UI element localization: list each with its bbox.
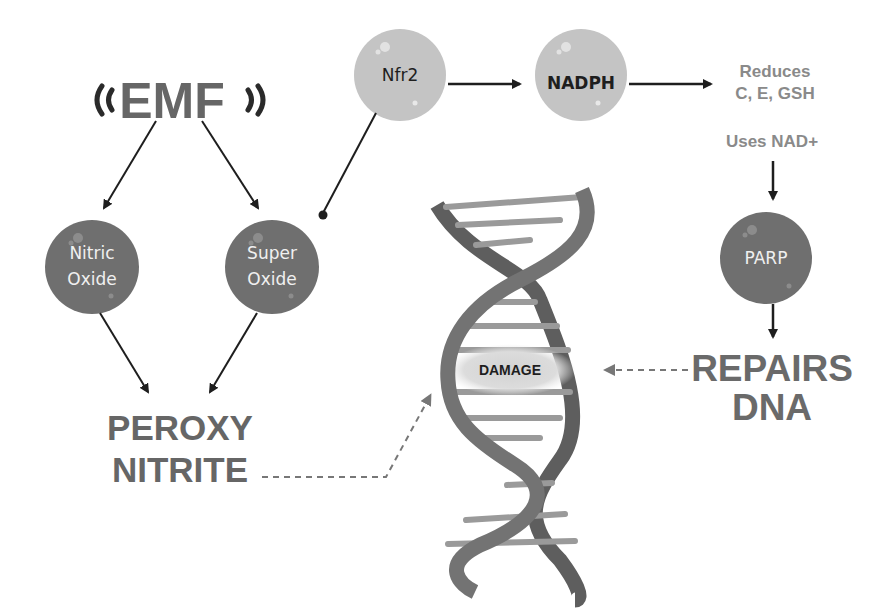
damage-label: DAMAGE — [479, 362, 541, 378]
emf-label: EMF — [119, 73, 225, 129]
emf-group: EMF — [97, 73, 263, 129]
arrow-super-oxide-to-peroxy — [210, 313, 257, 392]
node-parp: PARP — [720, 212, 812, 304]
nitric-oxide-line1: Nitric — [69, 243, 114, 263]
node-super-oxide: Super Oxide — [225, 220, 319, 314]
peroxy-line2: NITRITE — [112, 450, 248, 489]
signal-waves-left-icon — [97, 86, 112, 114]
node-nitric-oxide: Nitric Oxide — [45, 220, 139, 314]
nfr2-label: Nfr2 — [382, 65, 419, 85]
signal-waves-right-icon — [248, 86, 263, 114]
inhibit-dot — [319, 211, 328, 220]
nitric-oxide-line2: Oxide — [67, 269, 116, 289]
peroxy-line1: PEROXY — [107, 408, 253, 447]
parp-label: PARP — [745, 248, 788, 268]
dashed-arrow-peroxy-to-dna — [262, 396, 430, 477]
inhibit-nfr2-to-super-oxide — [323, 113, 376, 213]
pathway-diagram: EMF Nitric Oxide Super Oxide Nfr2 — [0, 0, 886, 614]
arrow-nitric-oxide-to-peroxy — [100, 313, 148, 392]
repairs-line2: DNA — [732, 387, 812, 428]
reduces-line2: C, E, GSH — [735, 84, 814, 103]
repairs-line1: REPAIRS — [691, 348, 853, 389]
nadph-label: NADPH — [547, 73, 615, 93]
node-nfr2: Nfr2 — [354, 29, 446, 121]
super-oxide-line2: Oxide — [247, 269, 296, 289]
arrow-emf-to-super-oxide — [202, 121, 258, 208]
arrow-emf-to-nitric-oxide — [104, 121, 156, 208]
node-nadph: NADPH — [535, 29, 627, 121]
super-oxide-line1: Super — [247, 243, 297, 263]
reduces-line1: Reduces — [740, 62, 811, 81]
uses-nad-label: Uses NAD+ — [726, 132, 818, 151]
dna-helix: DAMAGE — [437, 190, 587, 600]
